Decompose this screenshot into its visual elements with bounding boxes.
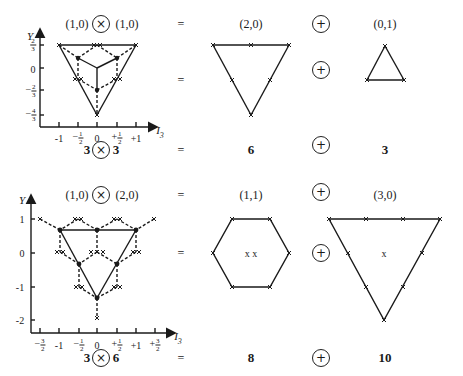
bottom-y-tick-neg-2: -2 <box>16 315 24 326</box>
top-x-tick-pos-1: +1 <box>131 133 142 144</box>
top-x-axis-label: I3 <box>156 124 164 139</box>
bottom-rep1-label: (1,1) <box>240 188 263 203</box>
bottom-dim-left: 3 <box>84 350 91 366</box>
bottom-y-axis-label: Y <box>19 194 25 206</box>
bottom-lhs-left-label: (1,0) <box>66 188 89 203</box>
sextet-diagram <box>213 45 289 115</box>
top-lhs-right-label: (1,0) <box>116 17 139 32</box>
octet-center-mark: x x <box>245 248 258 259</box>
bottom-x-tick-pos-3-2: +32 <box>149 338 160 353</box>
triplet-weight-dots <box>58 56 139 301</box>
top-rep1-label: (2,0) <box>240 17 263 32</box>
top-x-tick-neg-half: −12 <box>72 131 83 146</box>
bottom-y-tick-1: 1 <box>20 214 25 225</box>
top-lhs-left-label: (1,0) <box>66 17 89 32</box>
top-y-tick-0: 0 <box>31 64 36 75</box>
top-x-tick-pos-half: +12 <box>111 131 122 146</box>
bottom-dim-rep2: 10 <box>379 350 392 366</box>
top-dim-times-icon: × <box>92 141 110 159</box>
top-dim-rep2: 3 <box>382 142 389 158</box>
top-x-tick-0: 0 <box>95 133 100 144</box>
bottom-x-tick-neg-1: -1 <box>55 340 63 351</box>
bottom-y-tick-neg-1: -1 <box>16 282 24 293</box>
bottom-x-tick-pos-1: +1 <box>131 340 142 351</box>
bottom-x-tick-pos-half: +12 <box>111 338 122 353</box>
top-equals-sign: = <box>178 17 185 32</box>
top-dim-rep1: 6 <box>248 142 255 158</box>
bottom-dim-equals-sign: = <box>178 351 185 366</box>
bottom-middle-equals-sign: = <box>178 246 185 261</box>
top-dim-plus-icon: + <box>312 136 330 154</box>
bottom-x-axis-label: I3 <box>174 330 182 345</box>
bottom-middle-plus-icon: + <box>312 244 330 262</box>
bottom-plus-icon: + <box>312 183 330 201</box>
weight-x-markers <box>38 43 442 322</box>
top-product-diagram <box>40 30 156 127</box>
bottom-x-tick-neg-half: −12 <box>73 338 84 353</box>
top-dim-equals-sign: = <box>178 143 185 158</box>
decuplet-center-mark: x <box>382 248 387 259</box>
top-y-tick-neg-4-3: −43 <box>25 108 36 123</box>
bottom-y-tick-0: 0 <box>20 248 25 259</box>
bottom-product-diagram <box>31 196 174 333</box>
bottom-times-icon: × <box>92 186 110 204</box>
bottom-rep2-label: (3,0) <box>374 188 397 203</box>
top-dim-left: 3 <box>84 142 91 158</box>
top-middle-plus-icon: + <box>312 61 330 79</box>
antitriplet-diagram <box>367 46 404 80</box>
top-middle-equals-sign: = <box>178 73 185 88</box>
top-y-tick-neg-2-3: −23 <box>25 84 36 99</box>
decuplet-diagram <box>329 219 440 320</box>
bottom-lhs-right-label: (2,0) <box>116 188 139 203</box>
top-rep2-label: (0,1) <box>374 17 397 32</box>
top-x-tick-neg-1: -1 <box>55 133 63 144</box>
bottom-x-tick-0: 0 <box>95 340 100 351</box>
top-times-icon: × <box>92 15 110 33</box>
bottom-dim-rep1: 8 <box>248 350 255 366</box>
bottom-dim-plus-icon: + <box>312 349 330 367</box>
bottom-x-tick-neg-3-2: −32 <box>34 338 45 353</box>
top-y-tick-2-3: 23 <box>30 38 36 53</box>
bottom-equals-sign: = <box>178 188 185 203</box>
bottom-dim-times-icon: × <box>92 349 110 367</box>
top-plus-icon: + <box>312 15 330 33</box>
